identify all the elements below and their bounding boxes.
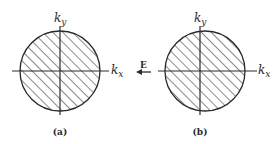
ky-label-b: ky [194, 11, 207, 27]
kx-label-b: kx [258, 63, 270, 79]
electric-field-indicator: E [136, 60, 151, 75]
kx-label-a: kx [111, 63, 123, 79]
caption-a: (a) [53, 127, 67, 137]
fermi-sphere-diagram: ky kx (a) E ky kx (b) [0, 0, 279, 144]
field-arrow-head-icon [136, 69, 142, 75]
ky-label-a: ky [54, 11, 67, 27]
caption-b: (b) [193, 127, 208, 137]
panel-b: ky kx (b) [158, 11, 270, 137]
panel-a: ky kx (a) [12, 11, 123, 137]
field-label: E [140, 60, 147, 70]
